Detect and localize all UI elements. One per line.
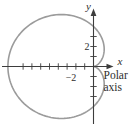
polar-coordinate-figure: y x 2 −2 Polar axis (0, 0, 134, 126)
y-tick-label-2: 2 (85, 41, 90, 52)
y-axis-arrowhead-icon (91, 9, 97, 17)
x-tick-label-neg2: −2 (66, 72, 77, 83)
y-axis-label: y (85, 0, 91, 12)
x-axis-label: x (117, 55, 123, 67)
polar-axis-caption-line2: axis (104, 81, 123, 93)
polar-axis-caption-line1: Polar (104, 69, 128, 81)
polar-graph-svg: y x 2 −2 Polar axis (0, 0, 134, 126)
